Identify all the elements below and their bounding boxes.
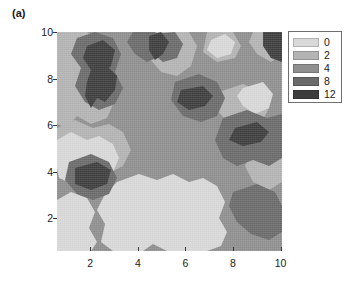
contour-plot-area (57, 32, 282, 251)
legend-swatch-icon (293, 64, 319, 73)
legend-item: 12 (293, 88, 338, 100)
y-tick-label: 10 (27, 27, 53, 37)
y-tick-mark (53, 218, 57, 219)
legend-item: 2 (293, 49, 338, 61)
x-tick-mark (138, 247, 139, 251)
y-tick-mark (53, 125, 57, 126)
legend-label: 8 (324, 76, 330, 87)
page-title: (a) (12, 7, 25, 19)
legend-label: 0 (324, 37, 330, 48)
y-tick-mark (53, 172, 57, 173)
y-tick-label: 2 (27, 213, 53, 223)
legend-item: 8 (293, 75, 338, 87)
contour-band-l0 (97, 174, 227, 251)
x-tick-label: 10 (268, 258, 294, 269)
contour-level-legend: 0 2 4 8 12 (288, 31, 342, 103)
x-tick-label: 8 (220, 258, 246, 269)
y-axis: 10 8 6 4 2 (22, 32, 53, 251)
legend-label: 12 (324, 89, 336, 100)
y-tick-label: 6 (27, 120, 53, 130)
x-tick-mark (233, 247, 234, 251)
legend-label: 4 (324, 63, 330, 74)
y-tick-mark (53, 32, 57, 33)
legend-label: 2 (324, 50, 330, 61)
x-tick-mark (185, 247, 186, 251)
x-tick-label: 4 (125, 258, 151, 269)
legend-swatch-icon (293, 51, 319, 60)
x-tick-mark (90, 247, 91, 251)
x-tick-label: 6 (172, 258, 198, 269)
legend-item: 4 (293, 62, 338, 74)
legend-item: 0 (293, 36, 338, 48)
x-tick-label: 2 (77, 258, 103, 269)
legend-swatch-icon (293, 90, 319, 99)
legend-swatch-icon (293, 38, 319, 47)
x-axis: 2 4 6 8 10 (57, 251, 282, 275)
contour-figure: (a) (0, 0, 351, 291)
y-tick-mark (53, 79, 57, 80)
y-tick-label: 8 (27, 74, 53, 84)
legend-swatch-icon (293, 77, 319, 86)
x-tick-mark (281, 247, 282, 251)
y-tick-label: 4 (27, 167, 53, 177)
contour-svg (57, 32, 282, 251)
